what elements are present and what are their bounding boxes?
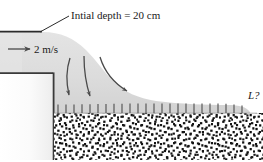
flow-diagram-svg — [0, 0, 263, 162]
channel-wall — [0, 72, 54, 160]
wall-face-shade — [0, 74, 53, 160]
water-upstream-fade — [0, 33, 22, 72]
initial-depth-label: Intial depth = 20 cm — [71, 10, 160, 21]
figure-root: Intial depth = 20 cm 2 m/s L? — [0, 0, 263, 162]
velocity-label: 2 m/s — [34, 44, 58, 55]
bed-speckle-fill-overlay — [54, 113, 263, 160]
initial-depth-leader-line — [40, 16, 69, 32]
permeable-bed — [54, 113, 263, 160]
length-unknown-label: L? — [248, 90, 260, 101]
